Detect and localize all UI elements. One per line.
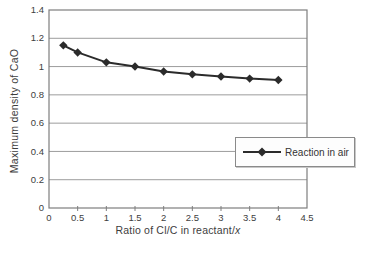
x-axis-title-text: Ratio of Cl/C in reactant/ bbox=[115, 224, 235, 236]
x-tick-label: 0.5 bbox=[71, 212, 84, 223]
data-point-marker bbox=[274, 76, 282, 84]
x-tick-label: 2.5 bbox=[186, 212, 199, 223]
x-axis-title: Ratio of Cl/C in reactant/x bbox=[49, 224, 307, 236]
plot-border bbox=[49, 10, 307, 208]
data-point-marker bbox=[159, 67, 167, 75]
y-axis-title: Maximum density of CaO bbox=[8, 21, 22, 201]
legend: Reaction in air bbox=[235, 137, 355, 167]
x-tick-label: 4.5 bbox=[300, 212, 313, 223]
chart: 00.511.522.533.544.500.20.40.60.811.21.4… bbox=[0, 0, 369, 253]
plot-area: 00.511.522.533.544.500.20.40.60.811.21.4 bbox=[0, 0, 369, 253]
y-tick-label: 0.6 bbox=[31, 117, 44, 128]
data-point-marker bbox=[245, 74, 253, 82]
x-tick-label: 2 bbox=[161, 212, 166, 223]
legend-label: Reaction in air bbox=[285, 147, 349, 158]
x-tick-label: 4 bbox=[276, 212, 281, 223]
y-tick-label: 0.2 bbox=[31, 174, 44, 185]
x-tick-label: 1.5 bbox=[128, 212, 141, 223]
data-point-marker bbox=[102, 58, 110, 66]
y-tick-label: 0.8 bbox=[31, 89, 44, 100]
x-tick-label: 0 bbox=[46, 212, 51, 223]
y-tick-label: 0.4 bbox=[31, 146, 44, 157]
data-point-marker bbox=[131, 62, 139, 70]
y-tick-label: 1.2 bbox=[31, 32, 44, 43]
data-point-marker bbox=[217, 72, 225, 80]
y-tick-label: 1 bbox=[39, 61, 44, 72]
data-point-marker bbox=[73, 48, 81, 56]
y-tick-label: 0 bbox=[39, 202, 44, 213]
x-tick-label: 1 bbox=[104, 212, 109, 223]
x-tick-label: 3.5 bbox=[243, 212, 256, 223]
y-tick-label: 1.4 bbox=[31, 4, 44, 15]
x-axis-title-variable: x bbox=[235, 224, 240, 236]
data-point-marker bbox=[59, 41, 67, 49]
data-point-marker bbox=[188, 70, 196, 78]
series-line bbox=[63, 45, 278, 80]
x-tick-label: 3 bbox=[218, 212, 223, 223]
legend-series-marker-icon bbox=[241, 146, 283, 158]
